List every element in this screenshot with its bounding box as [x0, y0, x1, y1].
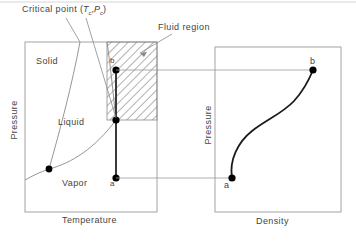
phase-diagram-figure	[0, 0, 356, 243]
y-axis-label-pressure-right: Pressure	[203, 95, 213, 155]
x-axis-label-density: Density	[256, 216, 289, 226]
point-a-label-left: a	[110, 179, 114, 188]
x-axis-label-temperature: Temperature	[62, 215, 117, 225]
right-plot-pressure-density	[215, 47, 341, 212]
triple-point-marker	[46, 166, 53, 173]
point-b-marker-right	[309, 66, 316, 73]
point-a-marker-right	[228, 174, 235, 181]
vaporization-curve	[49, 120, 116, 169]
isotherm-curve	[231, 70, 313, 178]
left-plot-pressure-temperature	[25, 18, 157, 212]
y-axis-label-pressure-left: Pressure	[9, 90, 19, 150]
critical-point-annotation: Critical point (Tc,Pc)	[22, 4, 106, 16]
critical-point-text: Critical point	[22, 4, 77, 14]
point-b-label-right: b	[310, 56, 315, 66]
point-b-label-left: b	[110, 56, 114, 65]
right-plot-frame	[215, 47, 341, 212]
vapor-region-label: Vapor	[62, 178, 87, 188]
paren-close: )	[103, 4, 106, 14]
solid-region-label: Solid	[36, 56, 58, 66]
point-a-label-right: a	[224, 180, 229, 190]
fluid-region-label: Fluid region	[158, 22, 210, 32]
liquid-region-label: Liquid	[58, 117, 84, 127]
sublimation-curve	[25, 169, 49, 180]
critical-point-leader-secondary	[66, 18, 80, 42]
